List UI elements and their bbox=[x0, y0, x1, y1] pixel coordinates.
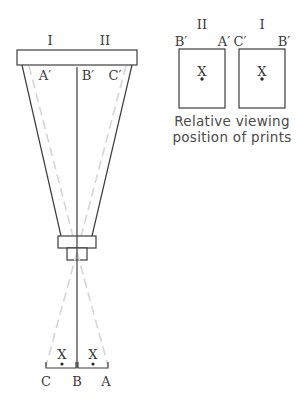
print-left-dot bbox=[200, 77, 203, 80]
subject-mark-right: X bbox=[88, 347, 98, 362]
subject-mark-left: X bbox=[57, 347, 67, 362]
print-set-label-II: II bbox=[197, 17, 207, 32]
print-left-mark: X bbox=[197, 64, 207, 79]
print-left-corner-A-prime: A′ bbox=[217, 34, 230, 49]
subject-dot-right bbox=[91, 362, 94, 365]
subject-dot-left bbox=[60, 362, 63, 365]
caption-line-1: Relative viewing bbox=[174, 113, 290, 129]
label-C-prime: C′ bbox=[109, 68, 122, 83]
caption-line-2: position of prints bbox=[172, 129, 291, 145]
label-C: C bbox=[41, 374, 51, 389]
print-right-corner-C-prime: C′ bbox=[234, 34, 247, 49]
label-A-prime: A′ bbox=[38, 68, 51, 83]
label-set-II: II bbox=[100, 33, 110, 48]
funnel-right-side bbox=[92, 65, 132, 236]
print-right-dot bbox=[260, 77, 263, 80]
print-set-label-I: I bbox=[259, 17, 264, 32]
ray-right-upper bbox=[77, 66, 126, 252]
funnel-left-side bbox=[22, 65, 61, 236]
stereo-projection-diagram: I II A′ B′ C′ X X C B A II I B′ A′ C′ B′… bbox=[0, 0, 305, 400]
print-right-mark: X bbox=[257, 64, 267, 79]
label-set-I: I bbox=[47, 33, 52, 48]
label-B: B bbox=[72, 374, 82, 389]
print-left-corner-B-prime: B′ bbox=[175, 34, 188, 49]
print-right-corner-B-prime: B′ bbox=[278, 34, 291, 49]
label-B-prime: B′ bbox=[82, 68, 95, 83]
ray-left-upper bbox=[29, 66, 77, 252]
label-A: A bbox=[100, 374, 111, 389]
film-plate bbox=[17, 50, 137, 65]
